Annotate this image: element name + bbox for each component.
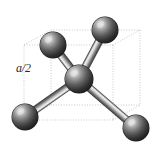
atom-body <box>40 32 66 58</box>
crystal-structure-figure: a/2 <box>0 0 163 149</box>
atom-body <box>123 115 149 141</box>
atoms-layer <box>12 17 150 142</box>
atom-bottom-right <box>123 115 150 142</box>
atom-center <box>65 65 94 94</box>
lattice-dimension-label: a/2 <box>16 62 31 74</box>
atom-bottom-left <box>12 104 39 131</box>
atom-body <box>92 17 118 43</box>
atom-top-left <box>40 32 67 59</box>
atom-top-right <box>92 17 119 44</box>
atom-body <box>65 65 93 93</box>
atom-body <box>12 104 38 130</box>
